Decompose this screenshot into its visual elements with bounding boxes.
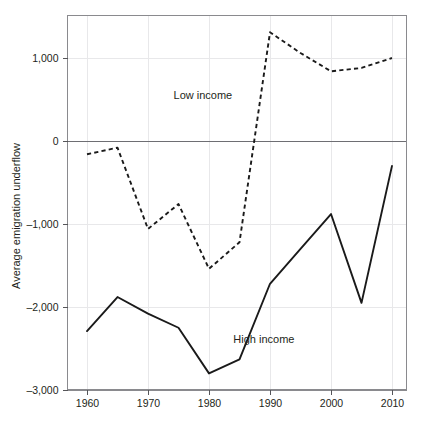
x-tick-label: 1990 (259, 397, 283, 409)
x-tick-label: 1970 (137, 397, 161, 409)
series-annotation-high-income: High income (233, 333, 294, 345)
series-line-low-income (87, 32, 392, 269)
x-axis-tick-labels: 196019701980199020002010 (76, 397, 405, 409)
x-tick-label: 1980 (198, 397, 222, 409)
y-axis-ticks (63, 59, 68, 391)
x-tick-label: 2010 (381, 397, 405, 409)
y-tick-label: –3,000 (26, 384, 58, 396)
line-chart-canvas: 196019701980199020002010 1,0000–1,000–2,… (0, 0, 423, 432)
y-tick-label: 0 (53, 135, 59, 147)
data-series (87, 32, 392, 373)
y-axis-title: Average emigration underflow (10, 143, 22, 289)
series-annotation-low-income: Low income (174, 89, 233, 101)
y-tick-label: –2,000 (26, 301, 58, 313)
y-tick-label: –1,000 (26, 218, 58, 230)
chart-figure: 196019701980199020002010 1,0000–1,000–2,… (0, 0, 423, 432)
x-tick-label: 1960 (76, 397, 100, 409)
series-annotations: Low incomeHigh income (174, 89, 295, 345)
y-tick-label: 1,000 (32, 52, 58, 64)
y-axis-tick-labels: 1,0000–1,000–2,000–3,000 (26, 52, 58, 396)
x-tick-label: 2000 (320, 397, 344, 409)
